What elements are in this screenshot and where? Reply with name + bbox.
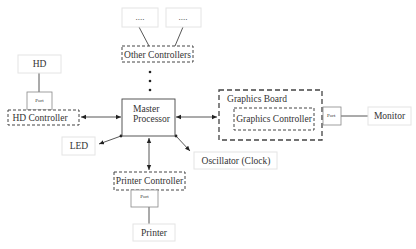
node-other-2-label: ....: [179, 12, 188, 22]
ellipsis-dot: [149, 89, 152, 92]
node-other-2: ....: [166, 8, 201, 27]
node-hd-port: Port: [27, 92, 52, 110]
node-printer-port: Port: [131, 190, 158, 207]
node-other-1-label: ....: [136, 12, 145, 22]
node-printer-controller: Printer Controller: [114, 172, 185, 190]
architecture-diagram: .... .... Other Controllers HD Port HD C…: [0, 0, 416, 249]
node-hd: HD: [18, 55, 61, 73]
node-hd-controller: HD Controller: [8, 110, 79, 125]
node-oscillator: Oscillator (Clock): [194, 152, 277, 169]
edge-other1-to-other-controllers: [139, 27, 149, 46]
ellipsis-dot: [149, 80, 152, 83]
node-other-controllers-label: Other Controllers: [124, 50, 191, 60]
node-master-processor: Master Processor: [122, 99, 175, 136]
node-graphics-port: Port: [323, 107, 341, 125]
node-hd-label: HD: [33, 59, 47, 69]
node-graphics-controller: Graphics Controller: [234, 108, 314, 130]
node-hd-controller-label: HD Controller: [12, 113, 68, 123]
node-printer: Printer: [133, 224, 175, 241]
node-led: LED: [62, 137, 95, 155]
node-oscillator-label: Oscillator (Clock): [202, 156, 271, 167]
ellipsis-dot: [149, 71, 152, 74]
node-graphics-board-label: Graphics Board: [227, 94, 287, 104]
node-other-controllers: Other Controllers: [122, 46, 193, 62]
node-monitor: Monitor: [368, 107, 411, 125]
node-graphics-controller-label: Graphics Controller: [236, 114, 313, 124]
node-printer-port-label: Port: [140, 194, 149, 199]
node-printer-controller-label: Printer Controller: [116, 176, 184, 186]
edge-master-led: [99, 136, 121, 144]
node-monitor-label: Monitor: [374, 111, 406, 121]
node-graphics-port-label: Port: [327, 113, 336, 118]
node-master-processor-label-line2: Processor: [133, 114, 171, 124]
node-led-label: LED: [70, 141, 89, 151]
node-other-1: ....: [122, 8, 158, 27]
node-master-processor-label-line1: Master: [133, 104, 160, 114]
node-hd-port-label: Port: [35, 98, 44, 103]
edge-other2-to-other-controllers: [175, 27, 183, 46]
node-printer-label: Printer: [141, 228, 168, 238]
connections: [39, 27, 368, 224]
edge-master-oscillator: [176, 136, 190, 151]
